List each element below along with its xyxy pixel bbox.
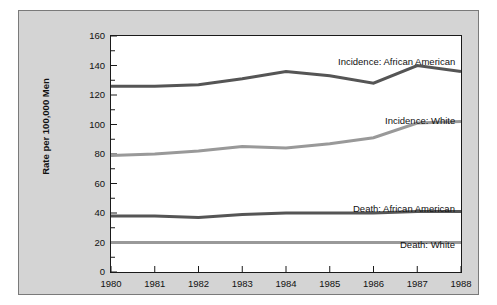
series-line-1 — [111, 122, 461, 156]
y-tick-label: 160 — [71, 31, 105, 41]
series-annotation-3: Death: White — [400, 239, 455, 250]
x-tick-label: 1981 — [133, 279, 177, 289]
series-line-0 — [111, 66, 461, 87]
x-tick-label: 1986 — [352, 279, 396, 289]
y-tick-label: 100 — [71, 120, 105, 130]
x-tick-label: 1983 — [220, 279, 264, 289]
y-tick-label: 0 — [71, 267, 105, 277]
x-tick-label: 1982 — [177, 279, 221, 289]
y-tick-label: 60 — [71, 179, 105, 189]
y-tick-label: 120 — [71, 90, 105, 100]
y-tick-label: 20 — [71, 238, 105, 248]
y-tick-label: 140 — [71, 61, 105, 71]
series-annotation-2: Death: African American — [353, 203, 455, 214]
x-tick-label: 1984 — [264, 279, 308, 289]
x-tick-label: 1987 — [395, 279, 439, 289]
x-tick-label: 1988 — [439, 279, 483, 289]
y-tick-label: 40 — [71, 208, 105, 218]
series-annotation-1: Incidence: White — [385, 115, 455, 126]
x-tick-label: 1985 — [308, 279, 352, 289]
x-tick-label: 1980 — [89, 279, 133, 289]
series-annotation-0: Incidence: African American — [338, 56, 455, 67]
series-lines — [111, 66, 461, 243]
figure-panel: Rate per 100,000 Men 0204060801001201401… — [18, 10, 479, 295]
y-tick-label: 80 — [71, 149, 105, 159]
